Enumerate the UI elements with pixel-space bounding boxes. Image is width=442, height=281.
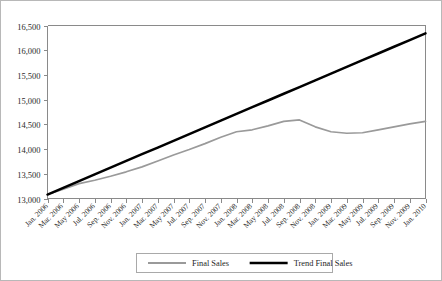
x-tick-labels: Jan. 2006Mar. 2006May 2006Jul. 2006Sep. … — [23, 201, 428, 230]
y-tick-marks — [44, 27, 48, 200]
y-tick-label: 13,000 — [17, 195, 40, 205]
legend-label: Final Sales — [192, 259, 229, 268]
legend-label: Trend Final Sales — [294, 259, 353, 268]
series-line-trend-final-sales — [48, 33, 426, 194]
data-series-group — [48, 33, 426, 194]
series-line-final-sales — [48, 120, 426, 195]
y-tick-label: 16,000 — [17, 46, 40, 56]
y-tick-label: 15,500 — [17, 71, 40, 81]
y-tick-label: 15,000 — [17, 96, 40, 106]
y-tick-label: 14,000 — [17, 145, 40, 155]
plot-area-frame — [48, 26, 426, 199]
chart-figure: 13,00013,50014,00014,50015,00015,50016,0… — [0, 0, 442, 281]
y-tick-labels: 13,00013,50014,00014,50015,00015,50016,0… — [17, 22, 40, 205]
chart-legend: Final SalesTrend Final Sales — [137, 254, 353, 273]
line-chart: 13,00013,50014,00014,50015,00015,50016,0… — [1, 1, 442, 281]
y-tick-label: 16,500 — [17, 22, 40, 32]
y-tick-label: 13,500 — [17, 170, 40, 180]
y-tick-label: 14,500 — [17, 120, 40, 130]
